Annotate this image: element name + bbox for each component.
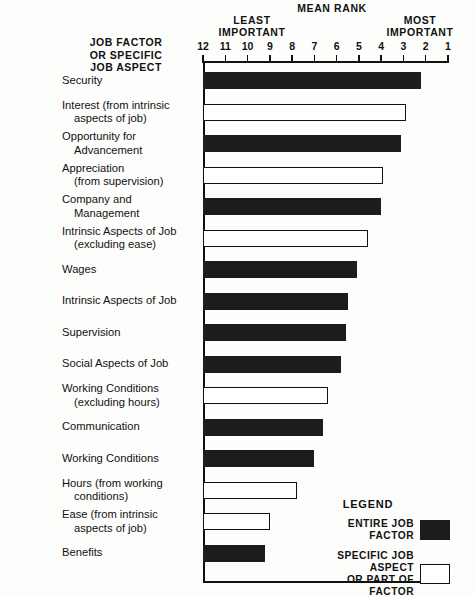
x-axis-tick-label-5: 5 [350, 40, 368, 52]
category-label-line1-7: Intrinsic Aspects of Job [0, 294, 192, 308]
category-label-line1-8: Supervision [0, 326, 192, 340]
category-label-10: Working Conditions(excluding hours) [0, 382, 192, 409]
least-important-label: LEAST IMPORTANT [205, 14, 299, 38]
bar-11 [203, 419, 323, 436]
bar-8 [203, 324, 346, 341]
x-axis-tick-label-1: 1 [439, 40, 457, 52]
category-label-5: Intrinsic Aspects of Job(excluding ease) [0, 225, 192, 252]
bar-9 [203, 356, 341, 373]
category-label-line2-4: Management [0, 207, 192, 221]
category-label-3: Appreciation(from supervision) [0, 162, 192, 189]
category-label-6: Wages [0, 263, 192, 277]
legend-label-entire: ENTIRE JOB FACTOR [300, 518, 414, 542]
x-axis-tick-labels: 121110987654321 [203, 40, 447, 53]
category-label-4: Company andManagement [0, 193, 192, 220]
category-label-line1-12: Working Conditions [0, 452, 192, 466]
mean-rank-title: MEAN RANK [277, 2, 387, 14]
x-axis-tick-label-8: 8 [283, 40, 301, 52]
category-label-line2-3: (from supervision) [0, 175, 192, 189]
x-axis-tick-label-2: 2 [417, 40, 435, 52]
bar-4 [203, 198, 381, 215]
category-label-line1-3: Appreciation [0, 162, 192, 176]
x-axis-tick-label-7: 7 [305, 40, 323, 52]
bar-6 [203, 261, 357, 278]
bar-10 [203, 387, 328, 404]
category-label-9: Social Aspects of Job [0, 357, 192, 371]
category-label-1: Interest (from intrinsicaspects of job) [0, 99, 192, 126]
category-label-7: Intrinsic Aspects of Job [0, 294, 192, 308]
category-label-line2-2: Advancement [0, 144, 192, 158]
category-label-line1-11: Communication [0, 420, 192, 434]
legend-title: LEGEND [304, 498, 432, 510]
x-axis-tick-label-3: 3 [394, 40, 412, 52]
bar-14 [203, 513, 270, 530]
category-label-line2-5: (excluding ease) [0, 238, 192, 252]
category-label-line2-14: aspects of job) [0, 522, 192, 536]
category-label-line1-0: Security [0, 74, 192, 88]
category-label-line2-10: (excluding hours) [0, 396, 192, 410]
bar-3 [203, 167, 383, 184]
x-axis-tick-label-12: 12 [194, 40, 212, 52]
legend-item-specific-job-aspect: SPECIFIC JOB ASPECT OR PART OF FACTOR [300, 550, 450, 597]
x-axis-tick-label-6: 6 [328, 40, 346, 52]
category-label-line1-9: Social Aspects of Job [0, 357, 192, 371]
legend-item-entire-job-factor: ENTIRE JOB FACTOR [300, 518, 450, 542]
bar-2 [203, 135, 401, 152]
legend: LEGEND ENTIRE JOB FACTOR SPECIFIC JOB AS… [300, 498, 450, 597]
bar-0 [203, 72, 421, 89]
category-label-line1-15: Benefits [0, 546, 192, 560]
category-label-0: Security [0, 74, 192, 88]
category-label-line1-13: Hours (from working [0, 477, 192, 491]
category-label-line1-2: Opportunity for [0, 130, 192, 144]
category-label-15: Benefits [0, 546, 192, 560]
category-label-2: Opportunity forAdvancement [0, 130, 192, 157]
legend-swatch-specific [420, 564, 450, 584]
chart-page: MEAN RANK LEAST IMPORTANT MOST IMPORTANT… [0, 0, 475, 597]
category-label-line1-14: Ease (from intrinsic [0, 508, 192, 522]
category-label-13: Hours (from workingconditions) [0, 477, 192, 504]
category-label-line2-1: aspects of job) [0, 112, 192, 126]
bar-7 [203, 293, 348, 310]
bar-12 [203, 450, 314, 467]
bar-5 [203, 230, 368, 247]
x-axis-tick-label-9: 9 [261, 40, 279, 52]
category-label-line1-6: Wages [0, 263, 192, 277]
category-label-11: Communication [0, 420, 192, 434]
bar-1 [203, 104, 406, 121]
bar-13 [203, 482, 297, 499]
legend-label-specific: SPECIFIC JOB ASPECT OR PART OF FACTOR [300, 550, 414, 597]
category-labels: SecurityInterest (from intrinsicaspects … [0, 62, 198, 583]
category-label-12: Working Conditions [0, 452, 192, 466]
category-label-line2-13: conditions) [0, 490, 192, 504]
category-label-line1-1: Interest (from intrinsic [0, 99, 192, 113]
most-important-label: MOST IMPORTANT [372, 14, 468, 38]
x-axis-tick-label-10: 10 [239, 40, 257, 52]
x-axis-tick-label-11: 11 [216, 40, 234, 52]
category-label-14: Ease (from intrinsicaspects of job) [0, 508, 192, 535]
category-label-line1-10: Working Conditions [0, 382, 192, 396]
legend-swatch-entire [420, 520, 450, 540]
x-axis-tick-label-4: 4 [372, 40, 390, 52]
category-label-line1-4: Company and [0, 193, 192, 207]
bar-15 [203, 545, 265, 562]
category-label-8: Supervision [0, 326, 192, 340]
category-label-line1-5: Intrinsic Aspects of Job [0, 225, 192, 239]
